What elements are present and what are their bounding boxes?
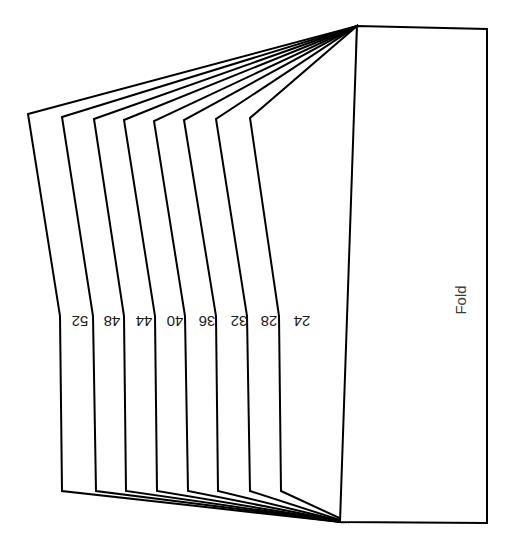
fold-diagram-root: 52 48 44 40 36 32 28 24 Fold (0, 0, 513, 542)
leaf-label-44: 44 (136, 313, 153, 330)
leaf-label-32: 32 (231, 313, 248, 330)
fold-panel-shape (340, 26, 487, 523)
fold-diagram-canvas: 52 48 44 40 36 32 28 24 Fold (0, 0, 513, 542)
leaf-label-48: 48 (104, 313, 121, 330)
leaf-label-52: 52 (72, 313, 89, 330)
leaf-group (28, 26, 357, 522)
leaf-label-40: 40 (167, 313, 184, 330)
leaf-label-36: 36 (199, 313, 216, 330)
leaf-label-28: 28 (261, 313, 278, 330)
fold-label: Fold (452, 285, 469, 314)
leaf-label-24: 24 (294, 313, 311, 330)
